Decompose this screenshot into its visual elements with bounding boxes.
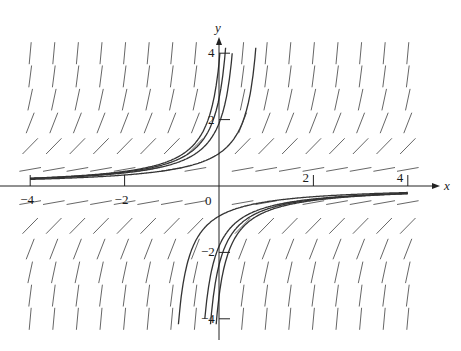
slope-segment [100, 66, 103, 88]
slope-segment [90, 201, 112, 205]
slope-segment [141, 218, 156, 234]
slope-segment [259, 138, 274, 154]
slope-segment [336, 285, 339, 307]
slope-field-plot: x y −4−22442−2−4 0 [0, 0, 461, 351]
slope-segment [122, 262, 127, 284]
slope-segment [358, 262, 363, 284]
y-axis-arrow-icon [216, 37, 222, 45]
slope-segment [350, 168, 372, 172]
slope-segment [259, 218, 274, 234]
slope-segment [377, 218, 392, 234]
slope-segment [407, 308, 409, 330]
slope-segment [185, 168, 207, 172]
slope-segment [93, 138, 108, 154]
slope-segment [122, 89, 127, 111]
y-tick-label: 2 [208, 112, 215, 127]
slope-segment [242, 308, 244, 330]
slope-segment [121, 113, 129, 134]
x-axis-arrow-icon [432, 183, 440, 189]
slope-segment [264, 262, 269, 284]
slope-segment [240, 262, 245, 284]
slope-segment [336, 308, 338, 330]
slope-segment [90, 168, 112, 172]
slope-segment [52, 285, 55, 307]
slope-segment [43, 168, 65, 172]
slope-segment [289, 42, 291, 64]
slope-segment [400, 138, 415, 154]
x-tick-label: 4 [397, 170, 404, 185]
slope-segment [193, 89, 198, 111]
slope-segment [28, 89, 33, 111]
slope-segment [29, 308, 31, 330]
y-axis-label: y [213, 20, 221, 35]
slope-segment [239, 239, 247, 259]
slope-segment [326, 201, 348, 205]
slope-segment [144, 239, 152, 259]
slope-segment [146, 89, 151, 111]
slope-segment [193, 262, 198, 284]
slope-segment [146, 262, 151, 284]
slope-segment [336, 42, 338, 64]
slope-segment [53, 308, 55, 330]
slope-segment [242, 42, 244, 64]
slope-segment [282, 218, 297, 234]
slope-segment [353, 218, 368, 234]
slope-segment [406, 262, 411, 284]
slope-segment [400, 218, 415, 234]
slope-segment [373, 201, 395, 205]
slope-segment [279, 168, 301, 172]
slope-segment [100, 285, 103, 307]
slope-segment [121, 239, 129, 259]
x-tick-label: 2 [302, 170, 309, 185]
slope-segment [241, 285, 244, 307]
slope-segment [397, 201, 419, 205]
slope-segment [383, 66, 386, 88]
slope-segment [70, 218, 85, 234]
slope-segment [19, 168, 41, 172]
slope-segment [255, 168, 277, 172]
slope-segment [241, 66, 244, 88]
slope-segment [262, 113, 270, 134]
slope-segment [168, 239, 176, 259]
slope-segment [28, 262, 33, 284]
slope-segment [288, 262, 293, 284]
slope-segment [336, 66, 339, 88]
slope-segment [70, 138, 85, 154]
slope-segment [170, 89, 175, 111]
slope-segment [288, 89, 293, 111]
slope-segment [309, 239, 317, 259]
slope-segment [50, 113, 58, 134]
slope-segment [76, 308, 78, 330]
slope-segment [100, 42, 102, 64]
slope-segment [382, 262, 387, 284]
slope-segment [312, 66, 315, 88]
slope-segment [286, 239, 294, 259]
slope-segment [406, 66, 409, 88]
slope-segment [282, 138, 297, 154]
slope-segment [311, 262, 316, 284]
slope-segment [407, 42, 409, 64]
slope-segment [99, 262, 104, 284]
slope-segment [43, 201, 65, 205]
y-tick-label: −2 [201, 244, 215, 259]
slope-segment [67, 168, 89, 172]
slope-segment [265, 308, 267, 330]
slope-segment [380, 113, 388, 134]
slope-segment [188, 138, 203, 154]
slope-segment [232, 201, 254, 205]
slope-segment [52, 262, 57, 284]
slope-segment [194, 285, 197, 307]
slope-segment [329, 138, 344, 154]
slope-segment [306, 138, 321, 154]
solution-curve [205, 193, 408, 318]
slope-segment [53, 42, 55, 64]
slope-segment [335, 89, 340, 111]
slope-segment [353, 138, 368, 154]
slope-segment [23, 138, 38, 154]
slope-segment [311, 89, 316, 111]
slope-segment [75, 89, 80, 111]
slope-segment [23, 218, 38, 234]
slope-segment [50, 239, 58, 259]
slope-segment [97, 239, 105, 259]
slope-segment [232, 168, 254, 172]
